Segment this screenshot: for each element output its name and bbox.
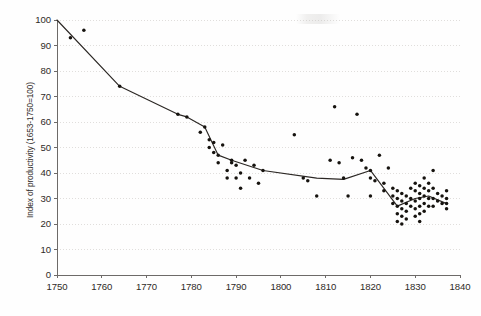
tick-labels: 0102030405060708090100175017601770178017… [35, 14, 470, 292]
data-point [409, 197, 413, 201]
data-point [440, 194, 444, 198]
data-point [212, 151, 216, 155]
data-point [207, 146, 211, 150]
data-point [413, 215, 417, 219]
data-point [418, 204, 422, 208]
data-point [436, 192, 440, 196]
trend-line-path [57, 20, 447, 206]
data-point [382, 181, 386, 185]
data-point [369, 194, 373, 198]
x-tick-label: 1780 [181, 281, 202, 292]
data-point [427, 204, 431, 208]
data-point [427, 197, 431, 201]
data-point [445, 202, 449, 206]
data-point [413, 207, 417, 211]
data-point [351, 156, 355, 160]
data-point [239, 171, 243, 175]
data-point [445, 207, 449, 211]
x-tick-label: 1820 [360, 281, 381, 292]
data-point [422, 210, 426, 214]
x-tick-label: 1770 [136, 281, 157, 292]
trend-line [57, 20, 447, 206]
data-point [396, 189, 400, 193]
data-point [293, 133, 297, 137]
chart-figure: 0102030405060708090100175017601770178017… [0, 0, 481, 316]
data-point [431, 187, 435, 191]
tick-marks [54, 20, 460, 278]
data-point [427, 181, 431, 185]
data-point [382, 189, 386, 193]
data-point [387, 166, 391, 170]
data-point [405, 202, 409, 206]
data-point [391, 194, 395, 198]
data-point [396, 204, 400, 208]
data-point [207, 138, 211, 142]
data-point [333, 105, 337, 109]
y-tick-label: 10 [41, 244, 51, 255]
y-tick-label: 30 [41, 193, 51, 204]
data-point [396, 220, 400, 224]
data-point [396, 212, 400, 216]
data-point [409, 187, 413, 191]
data-point [364, 166, 368, 170]
y-tick-label: 40 [41, 167, 51, 178]
data-point [400, 199, 404, 203]
data-point [252, 164, 256, 168]
data-point [440, 202, 444, 206]
data-point [431, 204, 435, 208]
data-point [418, 184, 422, 188]
data-point [396, 197, 400, 201]
data-point [221, 143, 225, 147]
y-tick-label: 100 [35, 14, 51, 25]
data-point [405, 194, 409, 198]
data-point [328, 159, 332, 163]
y-tick-label: 60 [41, 116, 51, 127]
y-tick-label: 70 [41, 91, 51, 102]
data-points [69, 28, 449, 225]
data-point [427, 189, 431, 193]
axis-titles: Index of productivity (1653-1750=100) [25, 82, 35, 218]
data-point [234, 176, 238, 180]
data-point [342, 176, 346, 180]
data-point [413, 181, 417, 185]
data-point [369, 169, 373, 173]
data-point [225, 176, 229, 180]
productivity-scatter-chart: 0102030405060708090100175017601770178017… [0, 0, 481, 316]
data-point [422, 194, 426, 198]
x-tick-label: 1840 [450, 281, 471, 292]
y-tick-label: 50 [41, 142, 51, 153]
data-point [261, 169, 265, 173]
data-point [225, 169, 229, 173]
data-point [431, 169, 435, 173]
data-point [400, 222, 404, 226]
data-point [203, 125, 207, 129]
data-point [418, 197, 422, 201]
data-point [422, 202, 426, 206]
data-point [405, 210, 409, 214]
grid-lines [57, 20, 460, 250]
x-tick-label: 1760 [91, 281, 112, 292]
data-point [302, 176, 306, 180]
data-point [234, 164, 238, 168]
data-point [378, 153, 382, 157]
data-point [400, 192, 404, 196]
data-point [355, 113, 359, 117]
data-point [346, 194, 350, 198]
data-point [409, 204, 413, 208]
data-point [199, 130, 203, 134]
data-point [315, 194, 319, 198]
data-point [373, 179, 377, 183]
data-point [400, 215, 404, 219]
data-point [176, 113, 180, 117]
data-point [369, 176, 373, 180]
data-point [413, 189, 417, 193]
data-point [418, 212, 422, 216]
y-tick-label: 80 [41, 65, 51, 76]
y-tick-label: 90 [41, 40, 51, 51]
data-point [422, 187, 426, 191]
data-point [248, 176, 252, 180]
data-point [337, 161, 341, 165]
x-tick-label: 1790 [226, 281, 247, 292]
data-point [118, 85, 122, 89]
x-tick-label: 1830 [405, 281, 426, 292]
